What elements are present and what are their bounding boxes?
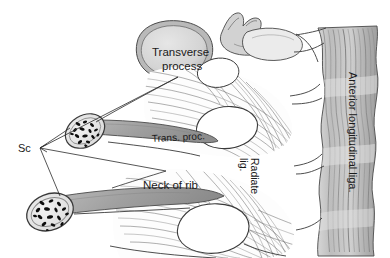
label-radiate-lig-line2: lig. bbox=[238, 158, 250, 171]
figure-canvas: Transverse process Trans. proc. Neck of … bbox=[0, 0, 390, 258]
anatomical-figure: Transverse process Trans. proc. Neck of … bbox=[0, 0, 390, 258]
label-sc: Sc bbox=[18, 142, 31, 154]
label-neck-of-rib: Neck of rib bbox=[143, 179, 198, 191]
costal-facet-lower bbox=[177, 204, 249, 253]
label-transverse-process-line1: Transverse bbox=[152, 46, 209, 58]
label-transverse-process-line2: process bbox=[162, 60, 203, 72]
label-anterior-longitudinal-ligament: Anterior longitudinal liga. bbox=[347, 72, 359, 192]
